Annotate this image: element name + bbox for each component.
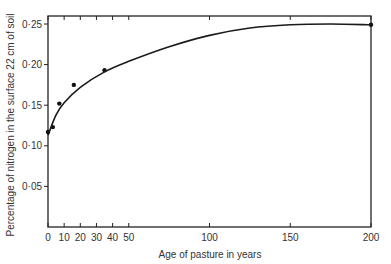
- nitrogen-vs-pasture-age-chart: 0·050·100·150·200·25 0102030405010015020…: [0, 0, 391, 264]
- y-tick-label: 0·20: [22, 59, 42, 70]
- x-tick-label: 30: [91, 232, 103, 243]
- plot-border: [48, 16, 371, 227]
- x-tick-label: 50: [123, 232, 135, 243]
- fitted-curve: [48, 24, 371, 135]
- y-tick-label: 0·25: [22, 19, 42, 30]
- y-tick-label: 0·15: [22, 100, 42, 111]
- y-axis-ticks: 0·050·100·150·200·25: [22, 19, 48, 192]
- data-point: [72, 83, 76, 87]
- data-series: [46, 23, 373, 136]
- x-tick-label: 150: [282, 232, 299, 243]
- x-tick-label: 0: [45, 232, 51, 243]
- x-tick-label: 200: [363, 232, 380, 243]
- y-axis-title: Percentage of nitrogen in the surface 22…: [5, 14, 16, 237]
- x-axis-title: Age of pasture in years: [159, 249, 262, 260]
- x-axis-ticks: 01020304050100150200: [45, 16, 380, 243]
- data-point: [57, 101, 61, 105]
- y-tick-label: 0·10: [22, 140, 42, 151]
- x-tick-label: 20: [75, 232, 87, 243]
- plot-frame: [48, 16, 371, 227]
- x-tick-label: 40: [107, 232, 119, 243]
- x-tick-label: 100: [201, 232, 218, 243]
- x-tick-label: 10: [59, 232, 71, 243]
- y-tick-label: 0·05: [22, 181, 42, 192]
